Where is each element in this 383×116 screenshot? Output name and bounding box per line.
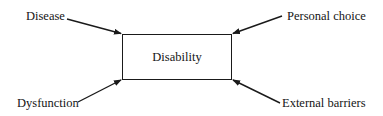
external-barriers-label: External barriers xyxy=(282,96,366,110)
dysfunction-label: Dysfunction xyxy=(17,96,79,110)
arrow-external-barriers xyxy=(233,80,280,103)
arrow-dysfunction xyxy=(78,80,121,102)
disability-box: Disability xyxy=(122,34,232,80)
disability-label: Disability xyxy=(152,50,201,65)
disease-label: Disease xyxy=(26,9,65,23)
arrow-personal-choice xyxy=(233,16,282,34)
disability-factors-diagram: Disability Disease Personal choice Dysfu… xyxy=(0,0,383,116)
personal-choice-label: Personal choice xyxy=(287,9,366,23)
arrow-disease xyxy=(67,19,121,34)
